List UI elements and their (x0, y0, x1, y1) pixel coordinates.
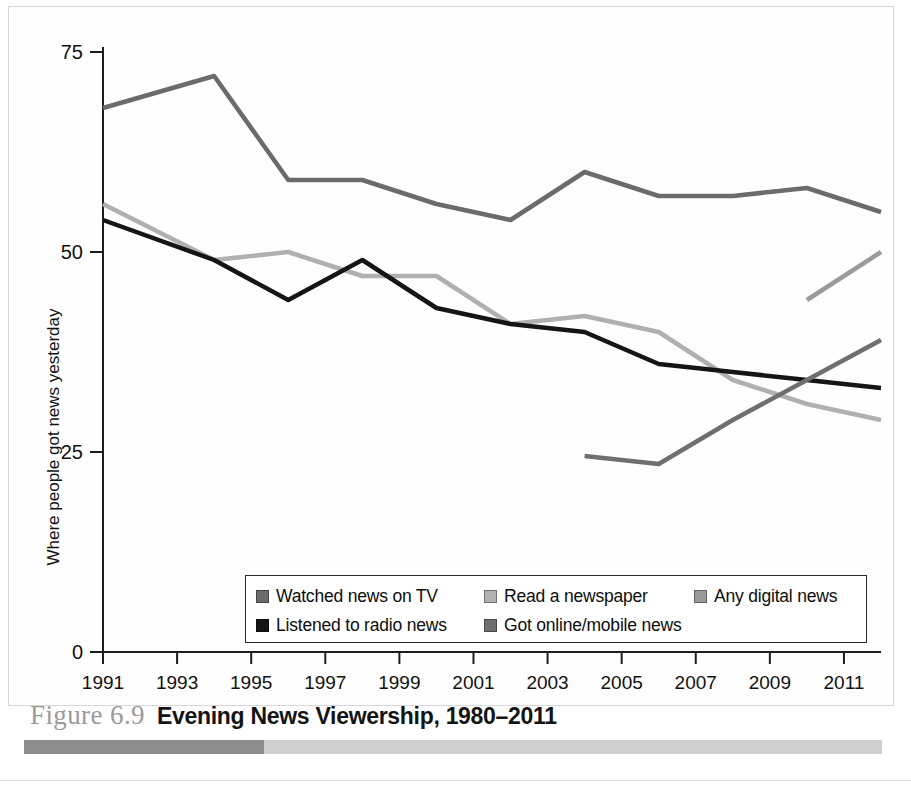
x-tick-label: 2009 (749, 672, 791, 693)
y-tick-label: 0 (72, 641, 83, 663)
figure-number: Figure 6.9 (30, 700, 145, 731)
legend-swatch-any-digital-news (694, 590, 707, 603)
axis-lines (103, 47, 881, 652)
y-axis-ticks: 0255075 (61, 41, 103, 663)
series-line-any-digital-news (807, 252, 881, 300)
legend-label-listened-to-radio-news: Listened to radio news (276, 615, 447, 636)
legend-swatch-got-online-mobile-news (484, 619, 497, 632)
x-tick-label: 1995 (230, 672, 272, 693)
legend-swatch-watched-news-on-tv (256, 590, 269, 603)
legend-item-read-a-newspaper[interactable]: Read a newspaper (484, 586, 694, 607)
legend-row: Watched news on TV Read a newspaper Any … (256, 582, 856, 611)
page-hairline (0, 780, 911, 781)
series-line-got-online-mobile-news (585, 340, 881, 464)
legend-item-listened-to-radio-news[interactable]: Listened to radio news (256, 615, 484, 636)
x-axis-ticks: 1991199319951997199920012003200520072009… (82, 652, 865, 693)
series-lines (103, 76, 881, 464)
chart-legend: Watched news on TV Read a newspaper Any … (245, 575, 867, 643)
x-tick-label: 1991 (82, 672, 124, 693)
legend-label-read-a-newspaper: Read a newspaper (504, 586, 648, 607)
figure-title: Evening News Viewership, 1980–2011 (157, 703, 557, 730)
figure-caption: Figure 6.9 Evening News Viewership, 1980… (24, 700, 888, 754)
y-tick-label: 50 (61, 241, 83, 263)
legend-item-got-online-mobile-news[interactable]: Got online/mobile news (484, 615, 682, 636)
x-tick-label: 2011 (824, 672, 865, 693)
legend-label-got-online-mobile-news: Got online/mobile news (504, 615, 682, 636)
x-tick-label: 1999 (378, 672, 420, 693)
caption-line: Figure 6.9 Evening News Viewership, 1980… (24, 700, 888, 731)
series-line-watched-news-on-tv (103, 76, 881, 220)
y-axis-title: Where people got news yesterday (44, 308, 63, 566)
y-tick-label: 75 (61, 41, 83, 63)
rule-bar-dark-segment (24, 740, 264, 754)
caption-rule-bar (24, 740, 882, 754)
x-tick-label: 1997 (304, 672, 346, 693)
y-tick-label: 25 (61, 441, 83, 463)
x-tick-label: 2003 (526, 672, 568, 693)
legend-item-watched-news-on-tv[interactable]: Watched news on TV (256, 586, 484, 607)
legend-item-any-digital-news[interactable]: Any digital news (694, 586, 837, 607)
legend-label-any-digital-news: Any digital news (714, 586, 837, 607)
x-tick-label: 2005 (601, 672, 643, 693)
figure-frame: 0255075 19911993199519971999200120032005… (8, 6, 894, 706)
x-tick-label: 1993 (156, 672, 198, 693)
rule-bar-light-segment (264, 740, 882, 754)
legend-swatch-read-a-newspaper (484, 590, 497, 603)
series-line-listened-to-radio-news (103, 220, 881, 388)
series-line-read-a-newspaper (103, 204, 881, 420)
x-tick-label: 2007 (675, 672, 717, 693)
legend-row: Listened to radio news Got online/mobile… (256, 611, 856, 640)
legend-swatch-listened-to-radio-news (256, 619, 269, 632)
legend-label-watched-news-on-tv: Watched news on TV (276, 586, 438, 607)
x-tick-label: 2001 (452, 672, 494, 693)
